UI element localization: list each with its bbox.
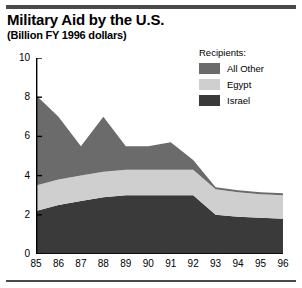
y-tick-label: 2	[8, 209, 30, 220]
chart-card: Military Aid by the U.S. (Billion FY 199…	[0, 0, 302, 288]
x-tick-label: 86	[46, 258, 70, 269]
y-tick-label: 8	[8, 91, 30, 102]
y-tick-label: 4	[8, 170, 30, 181]
x-tick-label: 90	[136, 258, 160, 269]
x-tick-label: 92	[181, 258, 205, 269]
chart-title: Military Aid by the U.S.	[7, 11, 164, 28]
x-tick-label: 95	[249, 258, 273, 269]
x-tick-label: 85	[24, 258, 48, 269]
plot-area	[36, 58, 283, 254]
x-tick-label: 88	[91, 258, 115, 269]
bottom-divider	[6, 280, 296, 282]
y-tick-label: 6	[8, 130, 30, 141]
x-tick-label: 94	[226, 258, 250, 269]
x-tick-label: 93	[204, 258, 228, 269]
x-tick-label: 89	[114, 258, 138, 269]
legend-heading: Recipients:	[199, 47, 264, 58]
x-tick-label: 87	[69, 258, 93, 269]
y-tick-label: 10	[8, 52, 30, 63]
chart-subtitle: (Billion FY 1996 dollars)	[7, 29, 127, 41]
x-tick-label: 91	[159, 258, 183, 269]
x-tick-label: 96	[271, 258, 295, 269]
stacked-area-plot	[36, 58, 283, 254]
top-divider	[6, 5, 296, 9]
